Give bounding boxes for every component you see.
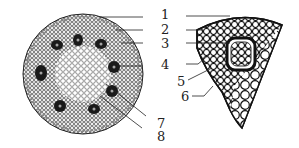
label-2: 2 (161, 23, 169, 36)
stem-cross-section-diagram (0, 0, 299, 148)
label-5: 5 (177, 75, 185, 88)
label-6: 6 (181, 90, 189, 103)
enlarged-sector (197, 18, 282, 128)
stem-section (23, 14, 143, 134)
label-4: 4 (161, 58, 169, 71)
label-1: 1 (161, 8, 169, 21)
pith (55, 46, 111, 102)
label-3: 3 (161, 37, 169, 50)
label-8: 8 (157, 130, 165, 143)
